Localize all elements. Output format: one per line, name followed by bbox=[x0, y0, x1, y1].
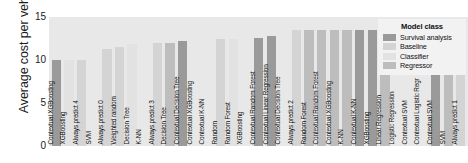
y-axis-ticks: 051015 bbox=[8, 0, 46, 163]
bar bbox=[77, 60, 86, 146]
bar-slot: K-NN bbox=[341, 17, 354, 146]
y-tick-label: 0 bbox=[12, 141, 46, 151]
y-tick-label: 15 bbox=[12, 12, 46, 22]
bar-slot: K-NN bbox=[138, 17, 151, 146]
bar-slot: SVM bbox=[88, 17, 101, 146]
bar-slot: Decision Tree bbox=[126, 17, 139, 146]
bar-slot: Random bbox=[214, 17, 227, 146]
legend-entry: Baseline bbox=[383, 43, 461, 51]
legend-label: Regressor bbox=[400, 61, 432, 70]
bar bbox=[178, 41, 187, 146]
bar-slot: Contextual XGBoosting bbox=[328, 17, 341, 146]
bar-slot: Random Forest bbox=[227, 17, 240, 146]
bar bbox=[153, 43, 162, 146]
legend-entries: Survival analysisBaselineClassifierRegre… bbox=[383, 33, 461, 70]
bar-slot: Contextual Linear Regression bbox=[265, 17, 278, 146]
bar-slot: Always predict 0 bbox=[101, 17, 114, 146]
legend-swatch bbox=[383, 62, 396, 69]
bar-slot: Always predict 4 bbox=[75, 17, 88, 146]
bar-slot: Contextual K-NN bbox=[202, 17, 215, 146]
bar-slot: XGBoosting bbox=[366, 17, 379, 146]
bar-slot: Contextual Decision Tree bbox=[176, 17, 189, 146]
plot-area: Contextual XGBoostingXGBoostingAlways pr… bbox=[49, 17, 468, 146]
bar bbox=[102, 49, 111, 146]
bar-slot: Always predict 3 bbox=[151, 17, 164, 146]
legend-swatch bbox=[383, 53, 396, 60]
bar bbox=[52, 60, 61, 146]
bar-slot: Contextual Random Forest bbox=[315, 17, 328, 146]
bar-slot: Random Forest bbox=[303, 17, 316, 146]
legend-label: Classifier bbox=[400, 52, 429, 61]
y-tick-label: 5 bbox=[12, 98, 46, 108]
y-tick-label: 10 bbox=[12, 55, 46, 65]
bar bbox=[342, 30, 351, 146]
bar-slot: Weighted random bbox=[113, 17, 126, 146]
bar-slot: XGBoosting bbox=[240, 17, 253, 146]
bar bbox=[229, 39, 238, 146]
bar-slot: Contextual Random Forest bbox=[252, 17, 265, 146]
legend-title: Model class bbox=[383, 22, 461, 31]
legend-entry: Survival analysis bbox=[383, 33, 461, 41]
bar-slot: Always predict 2 bbox=[290, 17, 303, 146]
legend-entry: Classifier bbox=[383, 52, 461, 60]
bar bbox=[355, 30, 364, 146]
bar-slot: XGBoosting bbox=[63, 17, 76, 146]
legend-entry: Regressor bbox=[383, 62, 461, 70]
bar-slot: Contextual Decision Tree bbox=[278, 17, 291, 146]
bar-slot: Contextual XGBoosting bbox=[50, 17, 63, 146]
bar bbox=[127, 44, 136, 146]
bar bbox=[216, 39, 225, 146]
bar-slot: Contextual K-NN bbox=[353, 17, 366, 146]
bar bbox=[330, 30, 339, 146]
bar bbox=[317, 30, 326, 146]
bar bbox=[368, 30, 377, 146]
legend: Model class Survival analysisBaselineCla… bbox=[378, 19, 466, 75]
bar-chart: Average cost per vehicle 051015 Contextu… bbox=[0, 0, 468, 163]
legend-label: Survival analysis bbox=[400, 33, 452, 42]
legend-swatch bbox=[383, 34, 396, 41]
bar bbox=[115, 47, 124, 146]
bar bbox=[267, 36, 276, 146]
bar-slot: Contextual XGBoosting bbox=[189, 17, 202, 146]
legend-label: Baseline bbox=[400, 42, 427, 51]
legend-swatch bbox=[383, 43, 396, 50]
bar bbox=[304, 30, 313, 146]
bar bbox=[64, 60, 73, 146]
bar bbox=[254, 38, 263, 146]
bar-slot: Decision Tree bbox=[164, 17, 177, 146]
bar bbox=[165, 43, 174, 146]
bar bbox=[292, 30, 301, 146]
